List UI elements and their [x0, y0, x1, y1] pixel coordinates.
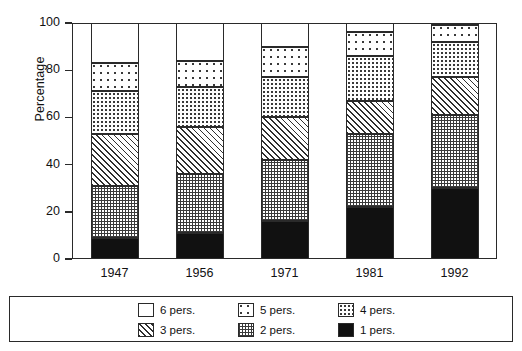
bar-segment[interactable] [176, 233, 224, 259]
legend-item[interactable]: 4 pers. [338, 300, 438, 319]
stacked-bar[interactable] [431, 23, 479, 259]
x-tick-label: 1992 [415, 266, 495, 280]
bar-segment[interactable] [91, 186, 139, 238]
stacked-bar[interactable] [261, 23, 309, 259]
bar-segment[interactable] [431, 42, 479, 77]
x-tick-label: 1971 [245, 266, 325, 280]
legend-item[interactable]: 5 pers. [238, 300, 338, 319]
bar-segment[interactable] [176, 61, 224, 87]
bar-segment[interactable] [261, 23, 309, 47]
legend-swatch-icon [238, 303, 254, 317]
bar-segment[interactable] [91, 63, 139, 91]
bar-segment[interactable] [91, 23, 139, 63]
bar-segment[interactable] [261, 160, 309, 221]
legend-label: 3 pers. [160, 324, 195, 336]
bar-segment[interactable] [176, 87, 224, 127]
legend-swatch-icon [238, 323, 254, 337]
bar-segment[interactable] [431, 115, 479, 188]
legend: 6 pers.5 pers.4 pers.3 pers.2 pers.1 per… [138, 300, 438, 339]
legend-label: 5 pers. [260, 304, 295, 316]
bar-segment[interactable] [431, 77, 479, 115]
legend-item[interactable]: 6 pers. [138, 300, 238, 319]
bar-segment[interactable] [431, 188, 479, 259]
bar-group [91, 23, 139, 259]
bar-segment[interactable] [346, 23, 394, 32]
x-tick-label: 1981 [330, 266, 410, 280]
bar-group [261, 23, 309, 259]
legend-swatch-icon [338, 323, 354, 337]
legend-label: 6 pers. [160, 304, 195, 316]
y-tick-label: 40 [46, 157, 60, 171]
legend-label: 4 pers. [360, 304, 395, 316]
bar-segment[interactable] [261, 221, 309, 259]
x-tick-label: 1956 [160, 266, 240, 280]
y-tick-mark [65, 117, 72, 118]
bar-segment[interactable] [176, 127, 224, 174]
y-tick-label: 100 [39, 15, 60, 29]
bar-segment[interactable] [261, 117, 309, 159]
y-tick-label: 80 [46, 62, 60, 76]
bar-segment[interactable] [261, 77, 309, 117]
bar-segment[interactable] [346, 207, 394, 259]
bar-segment[interactable] [346, 32, 394, 56]
bar-segment[interactable] [431, 25, 479, 42]
y-tick-label: 60 [46, 109, 60, 123]
bar-segment[interactable] [261, 47, 309, 78]
y-tick-label: 0 [53, 251, 60, 265]
stacked-bar-chart: Percentage 020406080100 1947195619711981… [0, 0, 522, 351]
y-tick-label: 20 [46, 204, 60, 218]
bar-segment[interactable] [176, 174, 224, 233]
bar-segment[interactable] [91, 134, 139, 186]
bar-segment[interactable] [346, 101, 394, 134]
stacked-bar[interactable] [176, 23, 224, 259]
bar-segment[interactable] [431, 23, 479, 25]
stacked-bar[interactable] [91, 23, 139, 259]
y-tick-mark [65, 22, 72, 23]
bar-group [176, 23, 224, 259]
legend-item[interactable]: 1 pers. [338, 320, 438, 339]
y-tick-mark [65, 258, 72, 259]
y-tick-mark [65, 70, 72, 71]
bars-layer [72, 23, 497, 259]
legend-swatch-icon [138, 323, 154, 337]
bar-segment[interactable] [346, 134, 394, 207]
legend-label: 1 pers. [360, 324, 395, 336]
bar-segment[interactable] [91, 91, 139, 133]
bar-group [346, 23, 394, 259]
legend-item[interactable]: 3 pers. [138, 320, 238, 339]
legend-label: 2 pers. [260, 324, 295, 336]
bar-segment[interactable] [91, 238, 139, 259]
x-tick-label: 1947 [75, 266, 155, 280]
legend-swatch-icon [338, 303, 354, 317]
y-axis-title: Percentage [33, 19, 47, 159]
y-tick-mark [65, 211, 72, 212]
legend-item[interactable]: 2 pers. [238, 320, 338, 339]
bar-segment[interactable] [346, 56, 394, 101]
bar-segment[interactable] [176, 23, 224, 61]
stacked-bar[interactable] [346, 23, 394, 259]
legend-swatch-icon [138, 303, 154, 317]
y-tick-mark [65, 164, 72, 165]
bar-group [431, 23, 479, 259]
